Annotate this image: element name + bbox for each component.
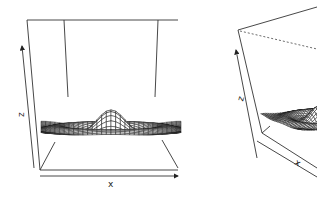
surface-facet xyxy=(144,135,149,136)
surface-facet xyxy=(92,133,97,135)
left-x-axis-label: x xyxy=(108,179,114,189)
surface-facet xyxy=(88,134,93,135)
surface-facet xyxy=(106,121,111,127)
right-box-bottom-edge xyxy=(262,133,317,168)
surface-facet xyxy=(130,134,135,135)
right-persp-plot: z x xyxy=(235,7,317,177)
left-surface-mesh xyxy=(41,110,181,135)
surface-facet xyxy=(97,133,102,135)
left-box-bottom-right-edge xyxy=(162,140,178,168)
left-persp-plot: z x xyxy=(16,20,181,189)
left-z-axis-arrow xyxy=(22,46,34,168)
surface-facet xyxy=(106,133,111,135)
right-x-axis-label: x xyxy=(293,157,303,169)
left-box-back-left-edge xyxy=(64,20,68,97)
surface-facet xyxy=(111,121,116,127)
surface-facet xyxy=(134,134,139,135)
surface-facet xyxy=(301,130,305,131)
right-box-top-edge xyxy=(238,7,317,30)
right-box-bottom-inner-edge xyxy=(262,126,270,133)
left-box-front-left-edge xyxy=(27,20,40,170)
surface-facet xyxy=(125,133,130,135)
surface-facet xyxy=(120,133,125,135)
right-box-hidden-edge xyxy=(240,31,317,49)
right-x-axis-line xyxy=(257,141,317,177)
surface-facet xyxy=(78,134,83,135)
figure: z x z x xyxy=(0,0,317,197)
surface-facet xyxy=(139,134,144,135)
left-z-axis-label: z xyxy=(16,112,26,117)
surface-facet xyxy=(111,133,116,135)
surface-facet xyxy=(116,133,121,135)
left-box-bottom-left-edge xyxy=(40,142,55,170)
surface-facet xyxy=(74,135,79,136)
surface-facet xyxy=(102,133,107,135)
left-box-back-right-edge xyxy=(155,20,158,97)
surface-facet xyxy=(83,134,88,135)
right-box-left-edge xyxy=(238,30,262,133)
